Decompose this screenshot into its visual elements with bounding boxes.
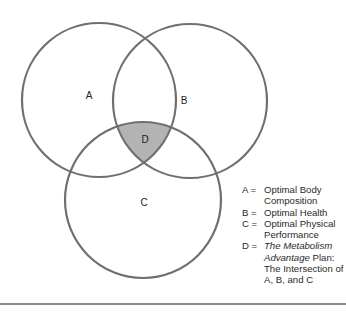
label-d: D [141,134,148,145]
legend-item-c: C = Optimal Physical Performance [242,218,344,241]
circle-b [113,24,267,178]
circle-a [22,23,176,177]
legend-key: A = [242,184,264,207]
legend-item-d: D = The Metabolism Advantage Plan: The I… [242,240,344,285]
legend-key: C = [242,218,264,241]
legend: A = Optimal Body Composition B = Optimal… [242,184,344,286]
label-b: B [181,95,188,106]
legend-text: The Metabolism Advantage Plan: The Inter… [264,240,344,285]
legend-item-b: B = Optimal Health [242,207,344,218]
legend-text: Optimal Body Composition [264,184,344,207]
label-c: C [140,197,147,208]
legend-key: D = [242,240,264,285]
legend-text: Optimal Health [264,207,344,218]
legend-item-a: A = Optimal Body Composition [242,184,344,207]
label-a: A [86,90,93,101]
legend-key: B = [242,207,264,218]
legend-text: Optimal Physical Performance [264,218,344,241]
horizontal-rule [0,303,346,305]
